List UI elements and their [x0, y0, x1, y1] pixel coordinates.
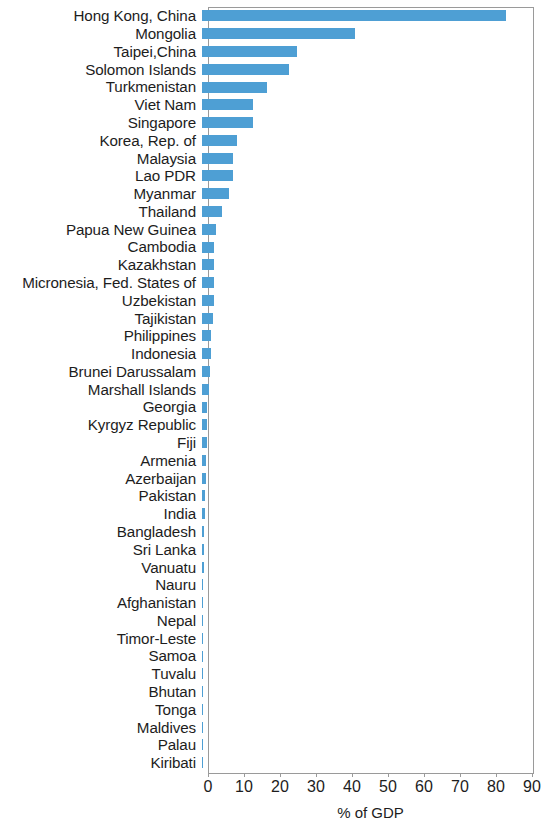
bar: [202, 384, 209, 395]
category-label: Bangladesh: [0, 524, 202, 539]
bar-row: Hong Kong, China: [0, 7, 545, 25]
bar-row: Armenia: [0, 452, 545, 470]
x-tick-label: 50: [379, 779, 397, 795]
bar-row: Singapore: [0, 114, 545, 132]
bar: [202, 597, 203, 608]
bar: [202, 455, 206, 466]
bar-cell: [202, 629, 545, 647]
category-label: Thailand: [0, 204, 202, 219]
category-label: Azerbaijan: [0, 471, 202, 486]
bar-cell: [202, 220, 545, 238]
category-label: Papua New Guinea: [0, 222, 202, 237]
category-label: Hong Kong, China: [0, 8, 202, 23]
bar: [202, 82, 267, 93]
bar-cell: [202, 96, 545, 114]
bar-cell: [202, 292, 545, 310]
bar: [202, 153, 233, 164]
category-label: Armenia: [0, 453, 202, 468]
category-label: Lao PDR: [0, 168, 202, 183]
bar: [202, 704, 203, 715]
bar-cell: [202, 238, 545, 256]
category-label: Kiribati: [0, 755, 202, 770]
bar: [202, 562, 204, 573]
category-label: Tajikistan: [0, 311, 202, 326]
bar-row: Thailand: [0, 203, 545, 221]
bar: [202, 277, 214, 288]
bar-row: Myanmar: [0, 185, 545, 203]
category-label: Micronesia, Fed. States of: [0, 275, 202, 290]
category-label: Samoa: [0, 648, 202, 663]
category-label: Tonga: [0, 702, 202, 717]
category-label: India: [0, 506, 202, 521]
bar-cell: [202, 452, 545, 470]
bar-cell: [202, 327, 545, 345]
bar-cell: [202, 523, 545, 541]
bar-cell: [202, 700, 545, 718]
x-tick-mark: [532, 773, 533, 777]
bar: [202, 188, 229, 199]
bar-row: Mongolia: [0, 25, 545, 43]
bar-cell: [202, 363, 545, 381]
bar: [202, 579, 203, 590]
bar-row: Sri Lanka: [0, 540, 545, 558]
bar-row: Indonesia: [0, 345, 545, 363]
category-label: Mongolia: [0, 26, 202, 41]
bar: [202, 206, 222, 217]
bar: [202, 242, 214, 253]
category-label: Indonesia: [0, 346, 202, 361]
bar-row: Korea, Rep. of: [0, 131, 545, 149]
category-label: Kyrgyz Republic: [0, 417, 202, 432]
bar-cell: [202, 309, 545, 327]
category-label: Solomon Islands: [0, 62, 202, 77]
bar-cell: [202, 647, 545, 665]
bar: [202, 473, 206, 484]
x-tick-label: 40: [343, 779, 361, 795]
bar: [202, 313, 213, 324]
bar-row: Kazakhstan: [0, 256, 545, 274]
bar: [202, 490, 205, 501]
bar-row: Uzbekistan: [0, 292, 545, 310]
bar-cell: [202, 665, 545, 683]
bar-row: Marshall Islands: [0, 380, 545, 398]
bar: [202, 402, 207, 413]
bar: [202, 366, 210, 377]
category-label: Tuvalu: [0, 666, 202, 681]
bar: [202, 135, 237, 146]
bar-row: Papua New Guinea: [0, 220, 545, 238]
bar-row: Palau: [0, 736, 545, 754]
bar-cell: [202, 754, 545, 772]
bar-cell: [202, 683, 545, 701]
category-label: Korea, Rep. of: [0, 133, 202, 148]
bar: [202, 526, 204, 537]
bar-row: Tonga: [0, 700, 545, 718]
bar-row: Cambodia: [0, 238, 545, 256]
category-label: Georgia: [0, 399, 202, 414]
bar-cell: [202, 540, 545, 558]
bar-cell: [202, 114, 545, 132]
bar-row: India: [0, 505, 545, 523]
bar-rows-container: Hong Kong, ChinaMongoliaTaipei,ChinaSolo…: [0, 7, 545, 772]
category-label: Maldives: [0, 720, 202, 735]
category-label: Nepal: [0, 613, 202, 628]
x-axis-title: % of GDP: [208, 805, 533, 820]
bar-cell: [202, 167, 545, 185]
category-label: Fiji: [0, 435, 202, 450]
bar-cell: [202, 416, 545, 434]
bar-row: Fiji: [0, 434, 545, 452]
x-tick-mark: [460, 773, 461, 777]
bar: [202, 544, 204, 555]
bar: [202, 508, 205, 519]
bar-cell: [202, 398, 545, 416]
bar-row: Tuvalu: [0, 665, 545, 683]
category-label: Brunei Darussalam: [0, 364, 202, 379]
bar-cell: [202, 256, 545, 274]
bar: [202, 330, 211, 341]
bar-row: Nauru: [0, 576, 545, 594]
category-label: Uzbekistan: [0, 293, 202, 308]
bar-row: Malaysia: [0, 149, 545, 167]
bar-row: Pakistan: [0, 487, 545, 505]
bar-cell: [202, 612, 545, 630]
bar-row: Turkmenistan: [0, 78, 545, 96]
bar-row: Kyrgyz Republic: [0, 416, 545, 434]
category-label: Bhutan: [0, 684, 202, 699]
